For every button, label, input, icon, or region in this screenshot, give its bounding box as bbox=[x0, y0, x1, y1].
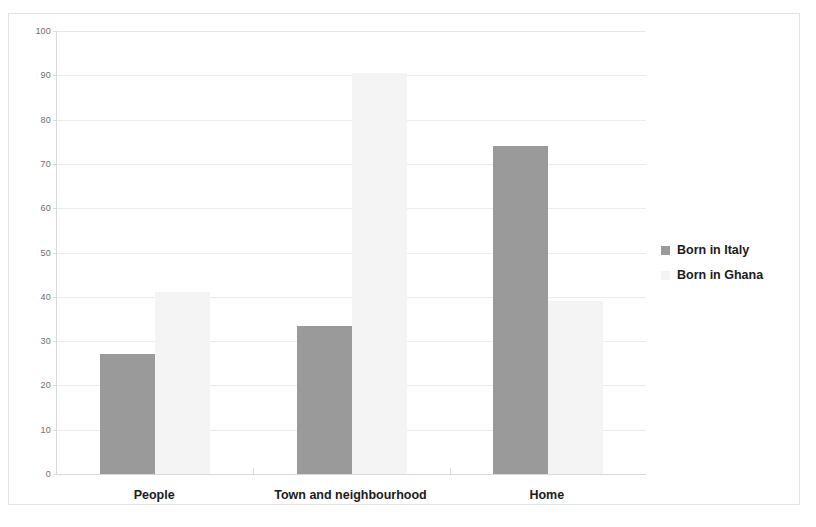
x-axis-category-label: Home bbox=[529, 488, 564, 502]
y-axis-tick-label: 20 bbox=[41, 380, 51, 390]
y-axis-tick-label: 60 bbox=[41, 203, 51, 213]
bar-born-in-ghana-town-and-neighbourhood bbox=[352, 73, 407, 474]
legend-label-italy: Born in Italy bbox=[677, 243, 749, 257]
y-axis-tick-label: 100 bbox=[35, 26, 51, 36]
category-separator bbox=[450, 468, 451, 474]
y-axis-tick-label: 10 bbox=[41, 425, 51, 435]
y-axis-tick-mark bbox=[53, 297, 57, 298]
y-axis-tick-label: 30 bbox=[41, 336, 51, 346]
legend-item-born-in-ghana[interactable]: Born in Ghana bbox=[661, 267, 796, 283]
bar-born-in-italy-home bbox=[493, 146, 548, 474]
legend-item-born-in-italy[interactable]: Born in Italy bbox=[661, 242, 796, 258]
legend-label-ghana: Born in Ghana bbox=[677, 268, 763, 282]
y-axis-tick-label: 40 bbox=[41, 292, 51, 302]
chart-legend: Born in Italy Born in Ghana bbox=[661, 242, 796, 292]
y-axis-tick-mark bbox=[53, 75, 57, 76]
x-axis-category-label: Town and neighbourhood bbox=[274, 488, 427, 502]
chart-figure: 0102030405060708090100 PeopleTown and ne… bbox=[8, 13, 800, 505]
y-axis-tick-mark bbox=[53, 253, 57, 254]
bar-born-in-italy-town-and-neighbourhood bbox=[297, 326, 352, 474]
y-axis-tick-label: 80 bbox=[41, 115, 51, 125]
y-axis-tick-mark bbox=[53, 164, 57, 165]
legend-swatch-icon-ghana bbox=[661, 271, 670, 280]
bar-born-in-ghana-people bbox=[155, 292, 210, 474]
y-axis-tick-label: 0 bbox=[46, 469, 51, 479]
y-axis-tick-label: 70 bbox=[41, 159, 51, 169]
y-axis-tick-mark bbox=[53, 208, 57, 209]
y-axis-tick-label: 50 bbox=[41, 248, 51, 258]
y-axis-tick-mark bbox=[53, 31, 57, 32]
category-separator bbox=[253, 468, 254, 474]
y-axis-tick-mark bbox=[53, 474, 57, 475]
bar-born-in-italy-people bbox=[100, 354, 155, 474]
plot-area: 0102030405060708090100 bbox=[56, 31, 646, 475]
y-axis-tick-mark bbox=[53, 385, 57, 386]
y-axis-tick-mark bbox=[53, 120, 57, 121]
y-axis-tick-mark bbox=[53, 430, 57, 431]
y-axis-tick-label: 90 bbox=[41, 70, 51, 80]
legend-swatch-icon-italy bbox=[661, 246, 670, 255]
gridline bbox=[57, 31, 646, 32]
x-axis-category-label: People bbox=[134, 488, 175, 502]
y-axis-tick-mark bbox=[53, 341, 57, 342]
bar-born-in-ghana-home bbox=[548, 301, 603, 474]
